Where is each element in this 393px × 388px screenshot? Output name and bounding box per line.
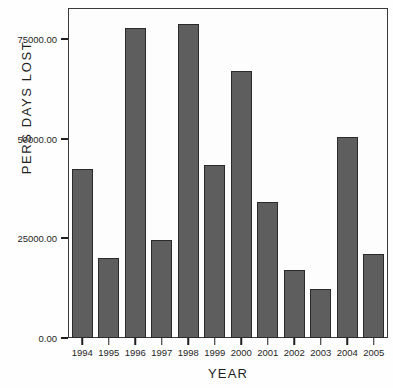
y-axis-tick-label: 0.00 [39,333,58,344]
x-axis-tick-label: 1997 [151,347,172,358]
bar [363,254,384,338]
x-axis-tick-label: 2000 [231,347,252,358]
x-axis-tick-mark [188,338,190,345]
x-axis-tick-mark [373,338,375,345]
bar-chart: PERS DAYS LOST 0.0025000.0050000.0075000… [0,0,393,388]
bar [337,137,358,338]
bar [284,270,305,338]
x-axis-tick-label: 1999 [204,347,225,358]
x-axis-title: YEAR [68,366,388,381]
x-axis-tick-label: 1994 [72,347,93,358]
x-axis-tick-label: 2005 [363,347,384,358]
x-axis-tick-marks [69,338,387,346]
bar [98,258,119,338]
x-axis-tick-mark [214,338,216,345]
x-axis-tick-label: 2001 [257,347,278,358]
bar [125,28,146,338]
x-axis-tick-mark [320,338,322,345]
x-axis-tick-label: 2004 [337,347,358,358]
y-axis-tick-label: 25000.00 [17,233,57,244]
x-axis-tick-label: 1998 [178,347,199,358]
x-axis-tick-mark [241,338,243,345]
bar [151,240,172,338]
y-axis-tick-mark [61,337,68,339]
x-axis-tick-mark [135,338,137,345]
y-axis-tick-label: 75000.00 [17,33,57,44]
y-axis-tick-labels: 0.0025000.0050000.0075000.00 [0,0,57,388]
bar [72,169,93,338]
y-axis-tick-mark [61,38,68,40]
y-axis-tick-mark [61,138,68,140]
bars-layer [69,9,387,338]
x-axis-tick-mark [82,338,84,345]
x-axis-tick-mark [294,338,296,345]
y-axis-tick-mark [61,237,68,239]
x-axis-tick-label: 1995 [98,347,119,358]
bar [231,71,252,338]
x-axis-tick-mark [108,338,110,345]
bar [178,24,199,338]
x-axis-tick-labels: 1994199519961997199819992000200120022003… [69,347,387,363]
bar [310,289,331,338]
x-axis-tick-mark [267,338,269,345]
bar [257,202,278,338]
bar [204,165,225,338]
x-axis-tick-mark [161,338,163,345]
x-axis-tick-label: 2002 [284,347,305,358]
x-axis-tick-mark [347,338,349,345]
x-axis-tick-label: 1996 [125,347,146,358]
y-axis-tick-label: 50000.00 [17,133,57,144]
x-axis-tick-label: 2003 [310,347,331,358]
